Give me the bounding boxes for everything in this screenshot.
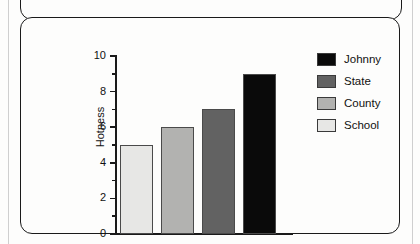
y-axis-minor-tick bbox=[112, 144, 116, 146]
page-rule-left bbox=[8, 0, 9, 244]
y-axis-major-tick bbox=[110, 55, 116, 57]
legend-swatch-state bbox=[317, 75, 336, 88]
y-axis-minor-tick bbox=[112, 180, 116, 182]
y-axis-tick-label-wrap: 0 bbox=[82, 228, 106, 239]
y-axis-tick-label: 8 bbox=[82, 86, 106, 97]
bar-school bbox=[120, 145, 153, 234]
y-axis-minor-tick bbox=[112, 73, 116, 75]
y-axis-major-tick bbox=[110, 198, 116, 200]
y-axis-tick-label: 10 bbox=[82, 50, 106, 61]
page-rule-right bbox=[412, 0, 413, 244]
y-axis-tick-label: 2 bbox=[82, 192, 106, 203]
y-axis-tick-label-wrap: 10 bbox=[82, 50, 106, 61]
legend-label: State bbox=[344, 74, 371, 89]
legend-label: County bbox=[344, 96, 380, 111]
y-axis-tick-label: 4 bbox=[82, 157, 106, 168]
figure-panel: Hotness 0246810 JohnnyStateCountySchool bbox=[20, 17, 400, 234]
y-axis-tick-label-wrap: 8 bbox=[82, 86, 106, 97]
page-canvas: Hotness 0246810 JohnnyStateCountySchool bbox=[0, 0, 420, 244]
y-axis-minor-tick bbox=[112, 215, 116, 217]
bar-county bbox=[161, 127, 194, 234]
y-axis-major-tick bbox=[110, 233, 116, 235]
legend-swatch-county bbox=[317, 97, 336, 110]
legend-label: Johnny bbox=[344, 52, 381, 67]
y-axis-major-tick bbox=[110, 91, 116, 93]
y-axis-major-tick bbox=[110, 162, 116, 164]
legend-swatch-johnny bbox=[317, 53, 336, 66]
y-axis-minor-tick bbox=[112, 109, 116, 111]
y-axis-tick-label-wrap: 4 bbox=[82, 157, 106, 168]
y-axis-tick-label: 6 bbox=[82, 121, 106, 132]
y-axis-tick-label: 0 bbox=[82, 228, 106, 239]
y-axis-tick-label-wrap: 6 bbox=[82, 121, 106, 132]
bar-state bbox=[202, 109, 235, 234]
y-axis-major-tick bbox=[110, 126, 116, 128]
bar-johnny bbox=[243, 74, 276, 234]
legend-label: School bbox=[344, 118, 379, 133]
y-axis-tick-label-wrap: 2 bbox=[82, 192, 106, 203]
legend-swatch-school bbox=[317, 119, 336, 132]
